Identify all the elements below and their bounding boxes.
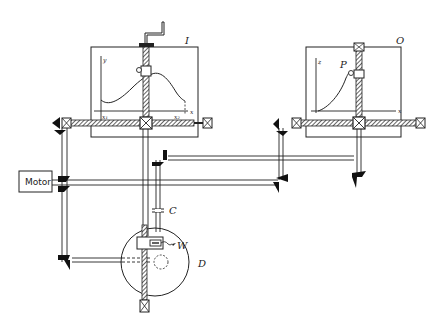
output-down-shaft <box>357 129 361 176</box>
input-x-label: x <box>190 108 194 115</box>
output-left-shaft <box>279 128 283 180</box>
output-vertical-screw <box>356 47 362 117</box>
input-pointer <box>137 68 142 73</box>
disc-drive-shaft <box>72 258 150 262</box>
input-vertical-screw <box>143 47 149 117</box>
bevel-gear-lower-left <box>58 255 70 270</box>
bevel-gear-output-down <box>352 171 366 188</box>
crank-handle <box>145 22 164 45</box>
x1-label: x₁ <box>102 113 108 120</box>
wheel-label: W <box>177 240 188 251</box>
output-carriage <box>354 70 364 78</box>
bevel-gear-output-left <box>273 118 288 136</box>
clutch-label: C <box>169 205 177 216</box>
output-pen <box>349 71 354 76</box>
motor: Motor <box>19 171 52 192</box>
x2-label: x₂ <box>174 113 180 120</box>
output-y-label: z <box>317 58 322 65</box>
pointer-label: P <box>339 59 347 70</box>
input-table-label: I <box>184 35 190 46</box>
disc-label: D <box>197 258 206 269</box>
disc-screw <box>142 225 147 300</box>
clutch-shaft <box>156 160 160 232</box>
input-carriage <box>141 66 151 76</box>
bevel-gear-upper-shaft-left <box>152 150 167 166</box>
bevel-gear-motor-right <box>273 174 288 193</box>
input-y-label: y <box>102 56 107 64</box>
motor-label: Motor <box>25 177 51 187</box>
output-table-label: O <box>396 35 404 46</box>
input-horizontal-screw <box>66 120 194 126</box>
integrator-diagram: y x x₁ x₂ I z x O P <box>0 0 441 329</box>
motor-main-shaft <box>50 180 278 185</box>
bevel-gear-motor-junction <box>58 176 70 192</box>
output-curve <box>318 72 350 111</box>
crank-collar <box>139 43 154 47</box>
upper-horizontal-shaft <box>168 156 300 160</box>
input-center-shaft <box>143 129 148 236</box>
left-vertical-shaft <box>62 128 67 262</box>
